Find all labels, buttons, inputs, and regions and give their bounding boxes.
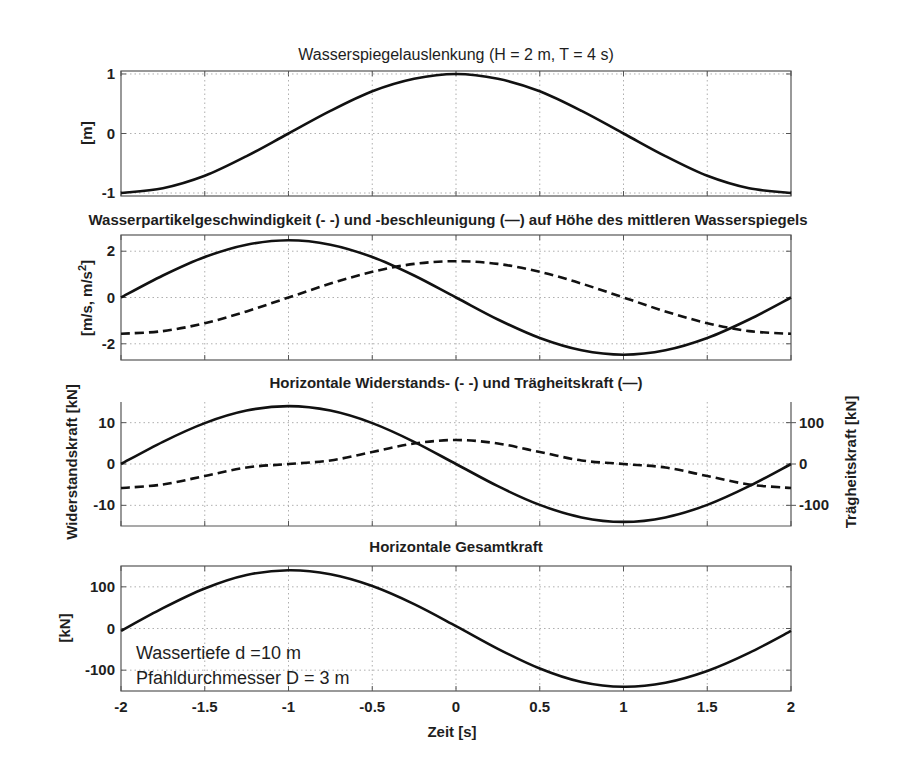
y-tick-label: 0 <box>107 620 115 637</box>
panel-4-ylabel: [kN] <box>56 613 73 642</box>
panel-particle-kinematics: Wasserpartikelgeschwindigkeit (- -) und … <box>76 211 808 360</box>
y-tick-label: 100 <box>90 578 115 595</box>
x-tick-label: 2 <box>787 698 795 715</box>
figure: Wasserspiegelauslenkung (H = 2 m, T = 4 … <box>0 0 912 780</box>
y-tick-label: 10 <box>98 414 115 431</box>
y-tick-label-right: 100 <box>799 414 824 431</box>
panel-1-title: Wasserspiegelauslenkung (H = 2 m, T = 4 … <box>298 46 613 63</box>
x-tick-label: -0.5 <box>359 698 385 715</box>
y-tick-label: -1 <box>102 184 115 201</box>
y-tick-label: -2 <box>102 335 115 352</box>
y-tick-label: 1 <box>107 65 115 82</box>
panel-3-ylabel-right: Trägheitskraft [kN] <box>842 396 859 529</box>
x-tick-label: -2 <box>114 698 127 715</box>
y-tick-label: 0 <box>107 289 115 306</box>
x-tick-label: 0.5 <box>529 698 550 715</box>
panel-surface-elevation: Wasserspiegelauslenkung (H = 2 m, T = 4 … <box>78 46 791 201</box>
x-tick-label: 1.5 <box>697 698 718 715</box>
y-tick-label-right: -100 <box>799 496 829 513</box>
x-tick-label: 1 <box>619 698 627 715</box>
panel-3-ylabel-left: Widerstandskraft [kN] <box>63 384 80 540</box>
panel-4-title: Horizontale Gesamtkraft <box>369 538 542 555</box>
panel-2-ylabel-text: [m/s, m/s <box>78 271 95 336</box>
x-axis-label: Zeit [s] <box>427 723 476 740</box>
y-tick-label: 0 <box>107 455 115 472</box>
y-tick-label-right: 0 <box>799 455 807 472</box>
panel-1-ylabel: [m] <box>78 121 95 144</box>
y-tick-label: -10 <box>93 496 115 513</box>
x-tick-label: -1 <box>282 698 295 715</box>
panel-2-title: Wasserpartikelgeschwindigkeit (- -) und … <box>88 211 807 228</box>
panel-drag-inertia-forces: Horizontale Widerstands- (- -) und Trägh… <box>63 374 859 540</box>
y-tick-label: 0 <box>107 125 115 142</box>
y-tick-label: -100 <box>85 661 115 678</box>
panel-2-ylabel: [m/s, m/s2] <box>76 260 95 336</box>
x-tick-label: 0 <box>452 698 460 715</box>
panel-total-force: Horizontale Gesamtkraft -1000100 -2-1.5-… <box>56 538 795 740</box>
annotation-pile-diameter: Pfahldurchmesser D = 3 m <box>136 668 350 688</box>
x-tick-label: -1.5 <box>192 698 218 715</box>
annotation-water-depth: Wassertiefe d =10 m <box>136 643 301 663</box>
y-tick-label: 2 <box>107 242 115 259</box>
panel-3-title: Horizontale Widerstands- (- -) und Trägh… <box>269 374 642 391</box>
